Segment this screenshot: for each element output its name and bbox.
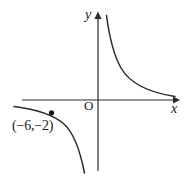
graph-canvas (0, 0, 191, 180)
origin-label: O (84, 99, 93, 112)
y-axis-arrowhead (94, 12, 101, 20)
x-axis-label: x (171, 102, 177, 116)
marked-point-dot (49, 110, 54, 115)
hyperbola-branch-quadrant-1 (107, 16, 176, 97)
graph-figure: y x O (−6,−2) (0, 0, 191, 180)
marked-point-label: (−6,−2) (12, 118, 53, 133)
y-axis-label: y (85, 8, 91, 22)
hyperbola-branch-quadrant-3 (14, 107, 85, 174)
